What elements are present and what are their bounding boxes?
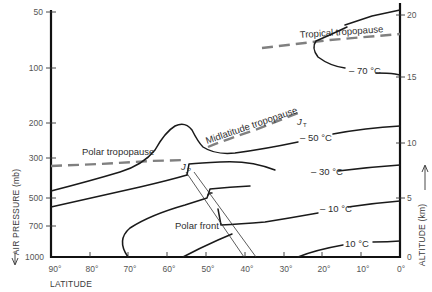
polar-front-line-1 — [186, 172, 244, 257]
polar-jet-label: J P — [180, 161, 191, 173]
isotherm-minus-30-far-right — [338, 165, 400, 171]
altitude-tick-label: 15 — [407, 72, 417, 82]
bottom-axis-tick-labels: 90° 80° 70° 60° 50° 40° 30° 20° 10° 0° — [49, 264, 406, 274]
pressure-tick-label: 300 — [29, 153, 43, 163]
isotherm-plus-10-right — [373, 241, 400, 242]
isotherm-minus-10-right — [348, 201, 400, 207]
isotherm-lower-polar — [183, 234, 232, 257]
isotherm-label-minus-30: – 30 °C — [311, 166, 343, 177]
isotherm-label-minus-70: – 70 °C — [349, 65, 381, 76]
latitude-tick-label: 30° — [280, 264, 293, 274]
pressure-axis-title: AIR PRESSURE (mb) — [11, 169, 21, 256]
pressure-tick-label: 500 — [29, 193, 43, 203]
latitude-tick-label: 60° — [163, 264, 176, 274]
latitude-tick-label: 90° — [49, 264, 62, 274]
altitude-tick-label: 0 — [407, 252, 412, 262]
altitude-tick-label: 20 — [407, 10, 417, 20]
altitude-axis-title: ALTITUDE (km) — [417, 204, 427, 266]
up-arrow-icon — [422, 165, 428, 190]
svg-text:P: P — [187, 167, 191, 173]
latitude-tick-label: 80° — [86, 264, 99, 274]
isotherm-upper-tropical — [345, 10, 400, 25]
polar-tropopause-line — [51, 160, 185, 166]
isotherm-minus-30-left — [51, 175, 187, 207]
isotherm-label-minus-50: – 50 °C — [300, 132, 332, 143]
latitude-axis-title: LATITUDE — [50, 279, 92, 289]
isotherm-minus-10-mid — [218, 209, 318, 225]
left-axis-tick-labels: 50 100 200 300 500 700 1000 — [25, 7, 44, 262]
pressure-tick-label: 700 — [29, 221, 43, 231]
svg-text:T: T — [303, 122, 307, 128]
latitude-tick-label: 10° — [357, 264, 370, 274]
isotherm-label-plus-10: 10 °C — [345, 238, 369, 249]
altitude-tick-label: 10 — [407, 138, 417, 148]
polar-front-label: Polar front — [175, 220, 219, 231]
isotherm-minus-30-right — [187, 162, 275, 175]
latitude-tick-label: 20° — [318, 264, 331, 274]
midlatitude-tropopause-label: Midlatitude tropopause — [204, 104, 298, 146]
atmosphere-cross-section-diagram: 50 100 200 300 500 700 1000 AIR PRESSURE… — [0, 0, 432, 292]
latitude-tick-label: 50° — [202, 264, 215, 274]
latitude-tick-label: 0° — [397, 264, 405, 274]
isotherm-label-minus-10: – 10 °C — [320, 203, 352, 214]
isotherm-minus-50-right — [333, 126, 400, 134]
altitude-tick-label: 5 — [407, 193, 412, 203]
latitude-tick-label: 40° — [241, 264, 254, 274]
latitude-tick-label: 70° — [124, 264, 137, 274]
pressure-tick-label: 50 — [34, 7, 44, 17]
subtropical-jet-label: J T — [296, 116, 307, 128]
svg-text:J: J — [296, 116, 302, 127]
pressure-tick-label: 100 — [29, 63, 43, 73]
svg-text:J: J — [180, 161, 186, 172]
isotherm-plus-10 — [298, 245, 343, 257]
pressure-tick-label: 1000 — [25, 252, 44, 262]
polar-tropopause-label: Polar tropopause — [82, 146, 154, 157]
pressure-tick-label: 200 — [29, 118, 43, 128]
isotherm-minus-50 — [51, 124, 298, 191]
polar-front-line-2 — [194, 172, 256, 257]
right-axis-tick-labels: 20 15 10 5 0 — [407, 10, 417, 262]
